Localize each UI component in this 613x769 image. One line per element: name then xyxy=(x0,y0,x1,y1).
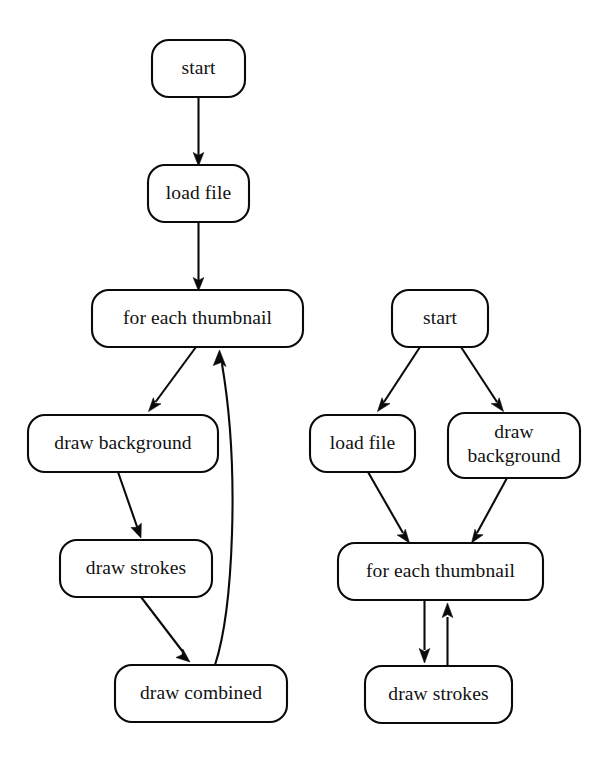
edge-draw-background-to-draw-strokes xyxy=(118,472,141,538)
right-flowchart: start load file draw background for each… xyxy=(310,290,580,723)
edge-draw-strokes-to-draw-combined xyxy=(141,597,190,662)
edge-draw-combined-to-for-each-thumbnail-loop xyxy=(213,350,232,665)
node-draw-strokes-label: draw strokes xyxy=(388,683,488,704)
node-start[interactable]: start xyxy=(392,290,488,347)
node-draw-background[interactable]: draw background xyxy=(448,413,580,478)
edge-draw-strokes-to-for-each-thumbnail xyxy=(442,603,453,668)
arrow-head-icon xyxy=(442,603,453,618)
flowchart-canvas: start load file for each thumbnail draw … xyxy=(0,0,613,769)
node-draw-strokes[interactable]: draw strokes xyxy=(60,540,212,597)
left-flowchart-nodes: start load file for each thumbnail draw … xyxy=(28,40,303,722)
arrow-head-icon xyxy=(378,398,391,412)
node-load-file-label: load file xyxy=(330,432,395,453)
node-draw-strokes-label: draw strokes xyxy=(86,557,186,578)
node-draw-background-label: draw background xyxy=(54,432,192,453)
arrow-head-icon xyxy=(213,350,226,367)
node-start-label: start xyxy=(181,57,216,78)
edge-for-each-thumbnail-to-draw-background xyxy=(149,347,197,412)
node-load-file-label: load file xyxy=(166,182,231,203)
node-draw-strokes[interactable]: draw strokes xyxy=(365,666,512,723)
node-draw-background-label-line1: draw xyxy=(494,421,533,442)
edge-load-file-to-for-each-thumbnail xyxy=(193,222,204,291)
node-for-each-thumbnail-label: for each thumbnail xyxy=(123,307,273,328)
edge-for-each-thumbnail-to-draw-strokes xyxy=(419,600,430,663)
node-load-file[interactable]: load file xyxy=(148,165,249,222)
right-flowchart-nodes: start load file draw background for each… xyxy=(310,290,580,723)
left-flowchart: start load file for each thumbnail draw … xyxy=(28,40,303,722)
node-start[interactable]: start xyxy=(152,40,245,97)
arrow-head-icon xyxy=(176,649,190,662)
node-draw-combined[interactable]: draw combined xyxy=(115,665,287,722)
node-draw-background[interactable]: draw background xyxy=(28,415,218,472)
edge-start-to-load-file xyxy=(378,347,421,412)
right-flowchart-edges xyxy=(368,347,507,668)
edge-load-file-to-for-each-thumbnail xyxy=(368,472,410,543)
edge-start-to-draw-background xyxy=(461,347,504,412)
node-draw-background-label-line2: background xyxy=(467,445,560,466)
arrow-head-icon xyxy=(419,649,430,664)
arrow-head-icon xyxy=(397,529,409,543)
node-start-label: start xyxy=(423,307,458,328)
arrow-head-icon xyxy=(149,398,162,412)
node-load-file[interactable]: load file xyxy=(310,415,415,472)
node-draw-combined-label: draw combined xyxy=(140,682,262,703)
node-for-each-thumbnail[interactable]: for each thumbnail xyxy=(338,543,543,600)
node-for-each-thumbnail-label: for each thumbnail xyxy=(366,560,516,581)
node-for-each-thumbnail[interactable]: for each thumbnail xyxy=(92,290,303,347)
arrow-head-icon xyxy=(491,398,503,412)
edge-draw-background-to-for-each-thumbnail xyxy=(472,478,508,543)
edge-start-to-load-file xyxy=(193,97,204,166)
flowchart-diagram-root: start load file for each thumbnail draw … xyxy=(0,0,613,769)
